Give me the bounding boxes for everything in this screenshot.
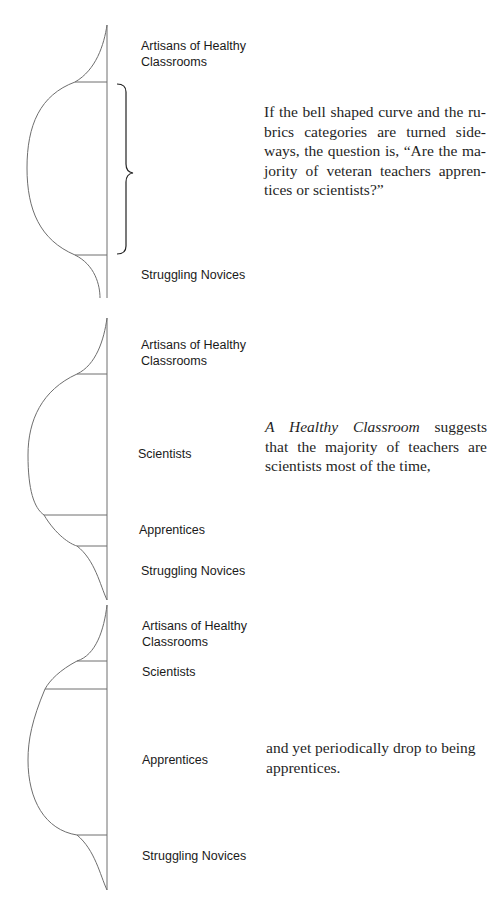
- paragraph-apprentices: and yet periodically drop to being appre…: [266, 738, 496, 777]
- text-line: that the majority of teachers are: [265, 437, 487, 457]
- label-artisans: Artisans of Healthy Classrooms: [141, 337, 246, 369]
- bell-curve-outline: [27, 25, 107, 298]
- text-line: brics categories are turned side-: [264, 122, 486, 142]
- label-struggling-novices: Struggling Novices: [141, 267, 245, 283]
- text-line: tices or scientists?”: [264, 180, 486, 200]
- bell-curve-panel-2: [28, 318, 107, 600]
- label-scientists: Scientists: [138, 446, 192, 462]
- book-title: A Healthy Classroom: [265, 418, 420, 435]
- label-artisans-line2: Classrooms: [142, 634, 247, 650]
- label-struggling-novices: Struggling Novices: [141, 563, 245, 579]
- label-apprentices: Apprentices: [142, 752, 208, 768]
- label-artisans: Artisans of Healthy Classrooms: [141, 38, 246, 70]
- label-apprentices: Apprentices: [139, 522, 205, 538]
- bell-curve-diagram: Artisans of Healthy Classrooms Strugglin…: [0, 0, 504, 907]
- bell-curve-panel-3: [28, 605, 107, 890]
- curly-brace-icon: [117, 84, 133, 254]
- text-line: If the bell shaped curve and the ru-: [264, 102, 486, 122]
- paragraph-healthy-classroom: A Healthy Classroom suggests that the ma…: [265, 417, 487, 476]
- paragraph-question: If the bell shaped curve and the ru- bri…: [264, 102, 486, 200]
- text-line: ways, the question is, “Are the ma-: [264, 141, 486, 161]
- label-struggling-novices: Struggling Novices: [142, 848, 246, 864]
- bell-curve-outline: [28, 605, 107, 890]
- text-line: scientists most of the time,: [265, 456, 487, 476]
- label-artisans: Artisans of Healthy Classrooms: [142, 618, 247, 650]
- label-artisans-line2: Classrooms: [141, 353, 246, 369]
- label-artisans-line1: Artisans of Healthy: [141, 38, 246, 54]
- text-line: and yet periodically drop to being: [266, 738, 496, 758]
- bell-curve-outline: [28, 318, 107, 600]
- text-line: jority of veteran teachers appren-: [264, 161, 486, 181]
- label-artisans-line1: Artisans of Healthy: [142, 618, 247, 634]
- text-fragment: suggests: [420, 418, 487, 435]
- bell-curve-panel-1: [27, 25, 133, 298]
- label-scientists: Scientists: [142, 664, 196, 680]
- label-artisans-line2: Classrooms: [141, 54, 246, 70]
- text-line: apprentices.: [266, 758, 496, 778]
- text-line: A Healthy Classroom suggests: [265, 417, 487, 437]
- label-artisans-line1: Artisans of Healthy: [141, 337, 246, 353]
